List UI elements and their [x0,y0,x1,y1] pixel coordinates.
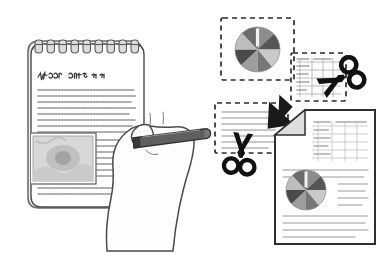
spiral-ring [59,40,67,53]
stylus-tip [133,137,140,148]
illustration-stage: Clipping content from a notepad into a c… [0,0,391,277]
scene-svg [0,0,391,277]
result-document[interactable] [275,110,375,244]
clip-table-text [297,59,331,90]
spiral-ring [131,40,139,53]
embedded-photo[interactable] [30,133,96,184]
spiral-ring [71,40,79,53]
clip-pie-chart [235,27,280,72]
dashed-selection-pie[interactable] [221,18,294,80]
spiral-ring [83,40,91,53]
spiral-rings [35,40,139,53]
spiral-ring [119,40,127,53]
clip-table-grid [296,58,341,97]
spiral-ring [35,40,43,53]
spiral-ring [47,40,55,53]
stylus-end [204,129,211,139]
document-pie-chart [286,170,326,210]
spiral-ring [95,40,103,53]
spiral-ring [107,40,115,53]
